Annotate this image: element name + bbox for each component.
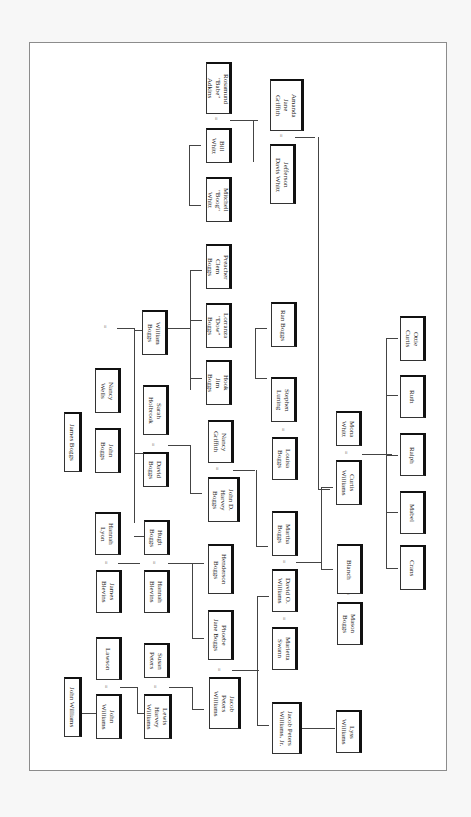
- marriage-symbol: =: [281, 617, 287, 620]
- person-box: Mason Boggs: [337, 602, 363, 645]
- person-name: Ruth: [408, 390, 416, 404]
- marriage-symbol: =: [216, 668, 222, 671]
- connector: [189, 145, 201, 146]
- person-name: Jacob Peters Williams, Jr.: [278, 711, 294, 746]
- person-name: Hook Jim Boggs: [206, 374, 230, 392]
- person-box: John Williams: [64, 677, 82, 737]
- person-box: Nancy Wells: [95, 368, 121, 413]
- person-box: Preacher Clem Boggs: [206, 244, 232, 289]
- person-name: Crans: [408, 560, 416, 576]
- person-box: David O. Williams: [272, 569, 298, 612]
- marriage-symbol: =: [103, 561, 109, 564]
- person-box: Amanda Jane Griffith: [270, 79, 304, 131]
- person-name: Hannah Blevins: [148, 581, 164, 603]
- connector: [255, 328, 267, 329]
- person-box: Bill Whitt: [206, 128, 232, 163]
- person-name: Bill Whitt: [210, 138, 226, 154]
- person-name: David O. Williams: [276, 578, 292, 604]
- connector: [257, 596, 269, 597]
- person-box: Blanch: [337, 544, 363, 594]
- person-box: Louisa Boggs: [272, 437, 298, 480]
- connector: [255, 378, 267, 379]
- person-box: Rosamund "Babe" Adkins: [206, 62, 232, 114]
- connector: [134, 536, 144, 537]
- person-name: John Boggs: [99, 442, 115, 460]
- person-box: John Boggs: [95, 428, 121, 473]
- person-name: Lyss Williams: [340, 719, 356, 744]
- connector: [192, 638, 204, 639]
- connector: [137, 687, 138, 713]
- connector: [321, 569, 333, 570]
- chart-frame: [29, 42, 447, 771]
- connector: [168, 445, 190, 446]
- person-name: James Boggs: [68, 424, 76, 461]
- person-box: Mona Whitt: [336, 411, 362, 446]
- connector: [295, 137, 315, 138]
- connector: [192, 563, 193, 638]
- marriage-symbol: =: [152, 685, 158, 688]
- person-name: Phoebe Jane Boggs: [212, 619, 228, 651]
- person-name: Ran Boggs: [279, 310, 287, 341]
- connector: [190, 493, 202, 494]
- connector: [256, 546, 268, 547]
- person-box: Jacob Peters Williams, Jr.: [272, 702, 302, 754]
- connector: [296, 562, 322, 563]
- person-name: Susan Peters: [148, 652, 164, 669]
- person-box: Phoebe Jane Boggs: [208, 610, 234, 660]
- connector: [190, 270, 202, 271]
- person-box: Jefferson Davis Whitt: [270, 144, 296, 204]
- connector: [256, 470, 257, 546]
- person-name: William Boggs: [146, 322, 162, 345]
- connector: [257, 596, 258, 725]
- marriage-symbol: =: [280, 428, 286, 431]
- person-name: Marietta Swann: [276, 637, 292, 661]
- person-box: Lewis Harvey Williams: [144, 694, 172, 739]
- person-name: Amanda Jane Griffith: [274, 94, 298, 118]
- person-box: Jacob Peters Williams: [209, 677, 241, 729]
- connector: [118, 563, 140, 564]
- connector: [168, 328, 190, 329]
- connector: [386, 568, 398, 569]
- person-name: Mabel: [408, 504, 416, 522]
- person-box: David Boggs: [143, 452, 169, 487]
- person-name: Hugh Boggs: [148, 529, 164, 547]
- person-name: Sarah Holbrook: [147, 397, 163, 424]
- person-name: John Williams: [100, 704, 116, 729]
- person-box: Martha Boggs: [272, 511, 298, 556]
- person-box: Hook Jim Boggs: [206, 360, 232, 405]
- person-box: Sarah Holbrook: [143, 385, 169, 435]
- person-box: Susan Peters: [144, 643, 170, 678]
- person-name: Mitchell "Boog" Whitt: [206, 188, 230, 212]
- connector: [117, 328, 134, 329]
- person-box: John D. Harvey Boggs: [208, 477, 240, 522]
- person-box: Ran Boggs: [271, 302, 297, 347]
- person-box: Curtis Williams: [336, 460, 362, 505]
- person-name: Mason Boggs: [341, 614, 357, 633]
- person-name: Henderson Boggs: [212, 554, 228, 584]
- person-box: Hugh Boggs: [144, 520, 170, 555]
- connector: [192, 563, 204, 564]
- person-name: Mona Whitt: [340, 421, 356, 437]
- person-box: Stephen Luning: [271, 377, 297, 422]
- person-box: Nancy Griffith: [208, 420, 234, 463]
- person-name: Lewis Harvey Williams: [145, 704, 169, 729]
- connector: [169, 687, 192, 688]
- connector: [386, 338, 387, 568]
- connector: [192, 687, 193, 709]
- person-name: Jefferson Davis Whitt: [274, 158, 290, 192]
- person-box: Crans: [400, 545, 426, 590]
- person-box: William Boggs: [142, 310, 168, 355]
- connector: [189, 205, 201, 206]
- connector: [190, 445, 191, 493]
- marriage-symbol: =: [281, 560, 287, 563]
- person-box: Mitchell "Boog" Whitt: [206, 177, 232, 222]
- connector: [386, 512, 398, 513]
- person-name: Nancy Wells: [99, 382, 115, 400]
- connector: [253, 120, 254, 162]
- connector: [318, 489, 330, 490]
- connector: [233, 470, 255, 471]
- connector: [189, 145, 190, 205]
- connector: [386, 395, 398, 396]
- person-box: James Boggs: [64, 412, 82, 472]
- marriage-symbol: =: [214, 467, 220, 470]
